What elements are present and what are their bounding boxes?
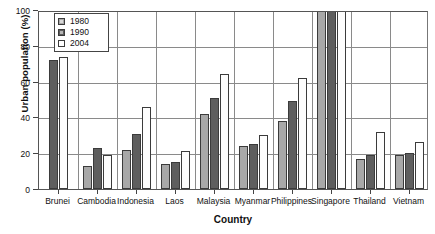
legend: 1980 1990 2004 [54,13,109,52]
bar-brunei-1990 [49,60,58,189]
x-tick-mark [97,190,98,194]
bar-myanmar-1990 [249,144,258,189]
bar-singapore-1990 [327,11,336,189]
x-tick-mark [331,190,332,194]
x-tick-mark [175,190,176,194]
bar-chart: Urban population (%) 020406080100 Brunei… [0,0,435,234]
group-separator [390,12,391,189]
legend-swatch-icon-1980 [58,18,65,25]
bar-thailand-2004 [376,132,385,189]
bar-brunei-2004 [59,57,68,189]
x-tick-mark [136,190,137,194]
bar-myanmar-1980 [239,146,248,189]
bar-vietnam-2004 [415,142,424,189]
bar-philippines-1990 [288,101,297,189]
y-tick-label: 100 [6,7,30,16]
group-separator [156,12,157,189]
x-tick-mark [292,190,293,194]
x-axis-title: Country [38,214,428,225]
bar-indonesia-2004 [142,107,151,189]
group-separator [273,12,274,189]
x-tick-mark [409,190,410,194]
legend-item-1990: 1990 [58,27,105,38]
bar-singapore-2004 [337,11,346,189]
group-separator [195,12,196,189]
legend-label-2004: 2004 [70,39,89,48]
legend-item-1980: 1980 [58,16,105,27]
y-tick-label: 60 [6,79,30,88]
bar-vietnam-1990 [405,153,414,189]
bar-malaysia-1980 [200,114,209,189]
y-tick-label: 40 [6,114,30,123]
gridline [39,83,427,84]
bar-philippines-2004 [298,78,307,189]
group-separator [312,12,313,189]
y-tick-label: 80 [6,43,30,52]
bar-philippines-1980 [278,121,287,189]
group-separator [351,12,352,189]
legend-swatch-icon-1990 [58,29,65,36]
bar-malaysia-2004 [220,74,229,189]
legend-label-1980: 1980 [70,17,89,26]
x-tick-mark [214,190,215,194]
y-tick-label: 20 [6,150,30,159]
bar-cambodia-1990 [93,148,102,189]
bar-laos-1990 [171,162,180,189]
bar-cambodia-1980 [83,166,92,189]
bar-laos-1980 [161,164,170,189]
group-separator [234,12,235,189]
x-tick-mark [58,190,59,194]
bar-indonesia-1990 [132,134,141,189]
x-tick-mark [370,190,371,194]
legend-label-1990: 1990 [70,28,89,37]
x-tick-label-vietnam: Vietnam [374,197,435,206]
bar-thailand-1980 [356,159,365,189]
bar-thailand-1990 [366,155,375,189]
gridline [39,118,427,119]
x-tick-mark [253,190,254,194]
legend-item-2004: 2004 [58,38,105,49]
bar-myanmar-2004 [259,135,268,189]
legend-swatch-icon-2004 [58,40,65,47]
bar-malaysia-1990 [210,98,219,189]
bar-vietnam-1980 [395,155,404,189]
y-tick-label: 0 [6,186,30,195]
bar-singapore-1980 [317,11,326,189]
bar-laos-2004 [181,151,190,189]
group-separator [117,12,118,189]
bar-indonesia-1980 [122,150,131,189]
bar-cambodia-2004 [103,155,112,189]
